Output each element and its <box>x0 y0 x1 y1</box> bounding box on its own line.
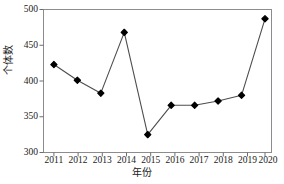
y-tick-label: 400 <box>12 77 38 87</box>
x-tick-label: 2020 <box>253 155 283 165</box>
x-axis-title: 年份 <box>0 167 284 179</box>
y-axis-title: 个体数 <box>3 32 14 88</box>
y-tick-label: 450 <box>12 41 38 51</box>
y-tick-label: 500 <box>12 5 38 15</box>
line-chart: 500 450 400 350 300 2011 2012 2013 2014 … <box>0 0 284 184</box>
y-axis-ticks <box>40 10 44 153</box>
y-tick-label: 350 <box>12 112 38 122</box>
